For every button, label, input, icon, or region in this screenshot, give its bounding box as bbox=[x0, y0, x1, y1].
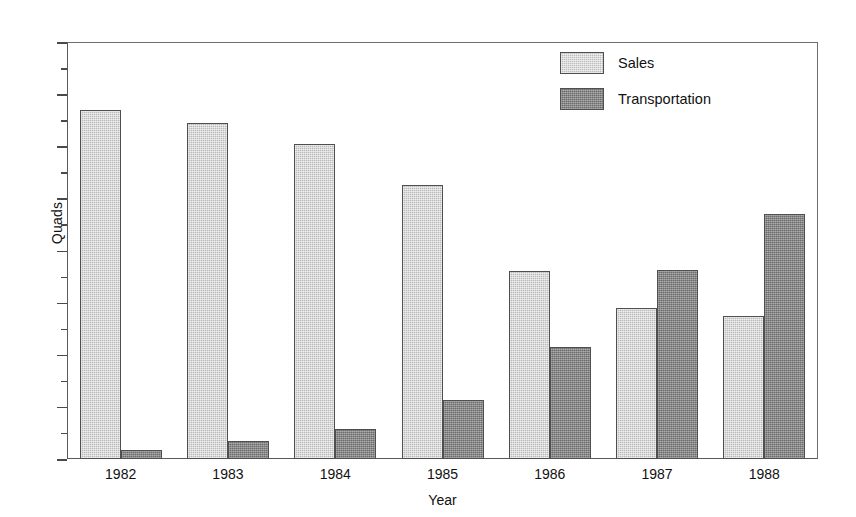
tick-mark bbox=[61, 224, 67, 226]
bar-1987-transportation bbox=[657, 270, 698, 459]
bar-1984-transportation bbox=[335, 429, 376, 459]
tick-mark bbox=[61, 172, 67, 174]
tick-mark bbox=[57, 355, 67, 357]
legend-item-transportation: Transportation bbox=[560, 84, 790, 114]
x-tick-label-1986: 1986 bbox=[495, 466, 605, 482]
bar-1988-sales bbox=[723, 316, 764, 459]
bar-1983-transportation bbox=[228, 441, 269, 459]
x-tick-label-1985: 1985 bbox=[388, 466, 498, 482]
tick-mark bbox=[57, 407, 67, 409]
bar-chart-figure: Quads 0246810121416 19821983198419851986… bbox=[0, 0, 856, 517]
tick-mark bbox=[61, 329, 67, 331]
chart-legend: Sales Transportation bbox=[560, 48, 790, 120]
legend-label-transportation: Transportation bbox=[618, 91, 711, 107]
y-axis-title: Quads bbox=[49, 163, 65, 283]
tick-mark bbox=[61, 120, 67, 122]
x-tick-label-1982: 1982 bbox=[66, 466, 176, 482]
tick-mark bbox=[57, 94, 67, 96]
tick-mark bbox=[61, 68, 67, 70]
bar-1982-sales bbox=[80, 110, 121, 459]
tick-mark bbox=[61, 433, 67, 435]
legend-swatch-sales bbox=[560, 52, 604, 74]
legend-item-sales: Sales bbox=[560, 48, 790, 78]
bar-1986-transportation bbox=[550, 347, 591, 459]
bar-1985-sales bbox=[402, 185, 443, 459]
bar-1987-sales bbox=[616, 308, 657, 459]
bar-1984-sales bbox=[294, 144, 335, 459]
x-tick-label-1984: 1984 bbox=[280, 466, 390, 482]
tick-mark bbox=[57, 251, 67, 253]
tick-mark bbox=[61, 277, 67, 279]
bar-1986-sales bbox=[509, 271, 550, 459]
bar-1985-transportation bbox=[443, 400, 484, 459]
tick-mark bbox=[57, 303, 67, 305]
tick-mark bbox=[61, 381, 67, 383]
x-tick-label-1987: 1987 bbox=[602, 466, 712, 482]
x-tick-label-1983: 1983 bbox=[173, 466, 283, 482]
tick-mark bbox=[57, 146, 67, 148]
legend-swatch-transportation bbox=[560, 88, 604, 110]
tick-mark bbox=[57, 42, 67, 44]
bar-1983-sales bbox=[187, 123, 228, 459]
bar-1982-transportation bbox=[121, 450, 162, 459]
x-axis-title: Year bbox=[67, 492, 818, 508]
bar-1988-transportation bbox=[764, 214, 805, 459]
x-tick-label-1988: 1988 bbox=[709, 466, 819, 482]
legend-label-sales: Sales bbox=[618, 55, 654, 71]
tick-mark bbox=[57, 198, 67, 200]
tick-mark bbox=[57, 459, 67, 461]
